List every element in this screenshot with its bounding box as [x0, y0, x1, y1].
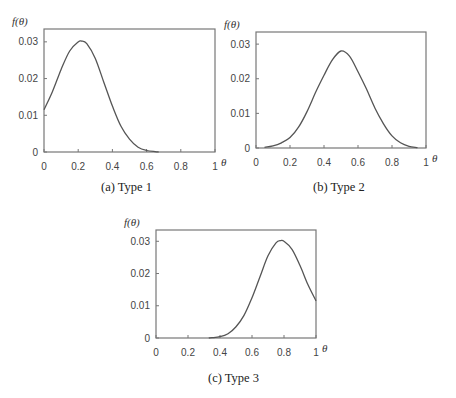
y-tick-label: 0.01 [131, 300, 151, 311]
x-tick-label: 0 [253, 157, 259, 168]
y-tick-label: 0.02 [19, 73, 39, 84]
caption-type-2: (b) Type 2 [313, 180, 365, 195]
caption-type-3: (c) Type 3 [208, 371, 259, 386]
x-tick-label: 0.6 [351, 157, 365, 168]
y-tick-label: 0.03 [231, 39, 251, 50]
chart-type-2: 00.20.40.60.8100.010.020.03f(θ)θ [224, 18, 438, 168]
plot-frame [156, 230, 316, 338]
x-tick-label: 0 [153, 347, 159, 358]
density-curve [44, 41, 159, 152]
y-axis-label: f(θ) [224, 18, 240, 31]
y-tick-label: 0.01 [19, 110, 39, 121]
y-tick-label: 0.03 [131, 236, 151, 247]
y-axis-label: f(θ) [12, 15, 28, 28]
x-tick-label: 0.2 [181, 347, 195, 358]
x-tick-label: 0.4 [213, 347, 227, 358]
x-axis-label: θ [432, 152, 438, 164]
chart-type-1: 00.20.40.60.8100.010.020.03f(θ)θ [12, 15, 227, 172]
x-tick-label: 0.6 [245, 347, 259, 358]
x-tick-label: 0 [41, 161, 47, 172]
x-tick-label: 0.2 [283, 157, 297, 168]
y-tick-label: 0.02 [231, 73, 251, 84]
x-tick-label: 0.8 [385, 157, 399, 168]
x-tick-label: 0.4 [317, 157, 331, 168]
x-tick-label: 0.2 [71, 161, 85, 172]
x-tick-label: 0.8 [174, 161, 188, 172]
x-axis-label: θ [221, 156, 227, 168]
figure: 00.20.40.60.8100.010.020.03f(θ)θ 00.20.4… [0, 0, 456, 398]
density-curve [265, 51, 418, 148]
x-axis-label: θ [322, 342, 328, 354]
x-tick-label: 1 [212, 161, 218, 172]
chart-type-3: 00.20.40.60.8100.010.020.03f(θ)θ [124, 216, 328, 358]
y-tick-label: 0.03 [19, 36, 39, 47]
x-tick-label: 0.6 [140, 161, 154, 172]
plot-frame [256, 32, 426, 148]
y-axis-label: f(θ) [124, 216, 140, 229]
y-tick-label: 0 [244, 143, 250, 154]
x-tick-label: 0.4 [105, 161, 119, 172]
y-tick-label: 0.01 [231, 108, 251, 119]
x-tick-label: 1 [423, 157, 429, 168]
y-tick-label: 0 [32, 147, 38, 158]
x-tick-label: 1 [313, 347, 319, 358]
caption-type-1: (a) Type 1 [101, 180, 152, 195]
x-tick-label: 0.8 [277, 347, 291, 358]
plot-frame [44, 29, 215, 152]
y-tick-label: 0 [144, 333, 150, 344]
y-tick-label: 0.02 [131, 268, 151, 279]
density-curve [209, 240, 316, 338]
